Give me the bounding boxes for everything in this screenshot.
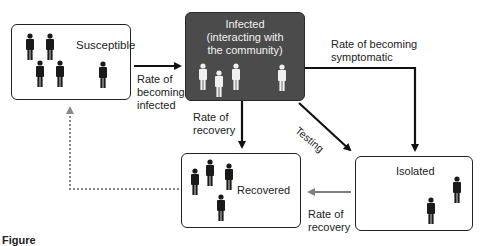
node-isolated: Isolated bbox=[355, 156, 473, 231]
arrow-infected-to-isolated-symptomatic bbox=[305, 68, 415, 150]
edge-label-rate-becoming-infected: Rate of becoming infected bbox=[137, 73, 185, 112]
recovered-label: Recovered bbox=[237, 184, 290, 197]
person-icon bbox=[224, 163, 234, 191]
person-icon bbox=[190, 168, 200, 196]
person-icon bbox=[216, 194, 226, 222]
edge-label-line: Rate of bbox=[308, 208, 350, 221]
edge-label-line: Rate of bbox=[193, 111, 235, 124]
person-icon bbox=[277, 64, 287, 92]
person-icon bbox=[231, 63, 241, 91]
node-infected: Infected (interacting with the community… bbox=[185, 12, 305, 101]
figure-caption: Figure bbox=[2, 234, 36, 246]
node-recovered: Recovered bbox=[181, 153, 301, 228]
person-icon bbox=[98, 61, 108, 89]
person-icon bbox=[452, 176, 462, 204]
infected-label-line-3: the community) bbox=[186, 44, 304, 57]
edge-label-line: infected bbox=[137, 99, 185, 112]
edge-label-rate-becoming-symptomatic: Rate of becoming symptomatic bbox=[331, 38, 417, 64]
susceptible-label: Susceptible bbox=[76, 39, 135, 52]
person-icon bbox=[198, 63, 208, 91]
arrow-recovered-to-susceptible bbox=[70, 108, 179, 189]
infected-label: Infected (interacting with the community… bbox=[186, 18, 304, 57]
edge-label-line: symptomatic bbox=[331, 51, 417, 64]
isolated-label: Isolated bbox=[396, 165, 435, 178]
infected-label-line-2: (interacting with bbox=[186, 31, 304, 44]
person-icon bbox=[214, 70, 224, 98]
infected-label-line-1: Infected bbox=[186, 18, 304, 31]
edge-label-rate-of-recovery-isolated: Rate of recovery bbox=[308, 208, 350, 234]
edge-label-line: becoming bbox=[137, 86, 185, 99]
person-icon bbox=[205, 159, 215, 187]
edge-label-rate-of-recovery-infected: Rate of recovery bbox=[193, 111, 235, 137]
person-icon bbox=[426, 197, 436, 225]
edge-label-line: recovery bbox=[308, 221, 350, 234]
node-susceptible: Susceptible bbox=[11, 24, 131, 100]
person-icon bbox=[45, 33, 55, 61]
edge-label-line: Rate of bbox=[137, 73, 185, 86]
person-icon bbox=[55, 60, 65, 88]
person-icon bbox=[25, 33, 35, 61]
edge-label-line: Rate of becoming bbox=[331, 38, 417, 51]
edge-label-line: recovery bbox=[193, 124, 235, 137]
person-icon bbox=[35, 60, 45, 88]
